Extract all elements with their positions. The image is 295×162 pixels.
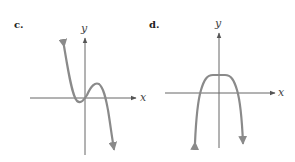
- panel-c: c. y x: [14, 19, 147, 155]
- panel-d-y-label: y: [214, 17, 222, 30]
- panel-c-label: c.: [14, 19, 24, 30]
- panel-d-label: d.: [149, 19, 159, 30]
- panel-c-y-label: y: [80, 22, 88, 35]
- panel-d-x-label: x: [278, 86, 285, 99]
- panel-d: d. y x: [149, 17, 285, 148]
- panel-c-x-label: x: [140, 91, 147, 104]
- graphs-figure: c. y x d. y x: [0, 0, 295, 162]
